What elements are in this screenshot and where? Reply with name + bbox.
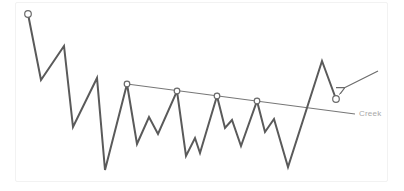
- creek-touch-4-marker: [254, 98, 260, 104]
- creek-touch-3-marker: [214, 93, 220, 99]
- pointer-arrow-icon: [344, 71, 378, 88]
- creek-touch-2-marker: [174, 88, 180, 94]
- swing-point-markers: [25, 11, 340, 104]
- end-point-marker: [333, 96, 340, 103]
- price-zigzag-line: [28, 14, 336, 170]
- creek-touch-1-marker: [124, 81, 130, 87]
- creek-label: Creek: [359, 109, 381, 118]
- start-point-marker: [25, 11, 32, 18]
- creek-breakout-diagram: [0, 0, 404, 191]
- creek-resistance-line: [127, 84, 355, 114]
